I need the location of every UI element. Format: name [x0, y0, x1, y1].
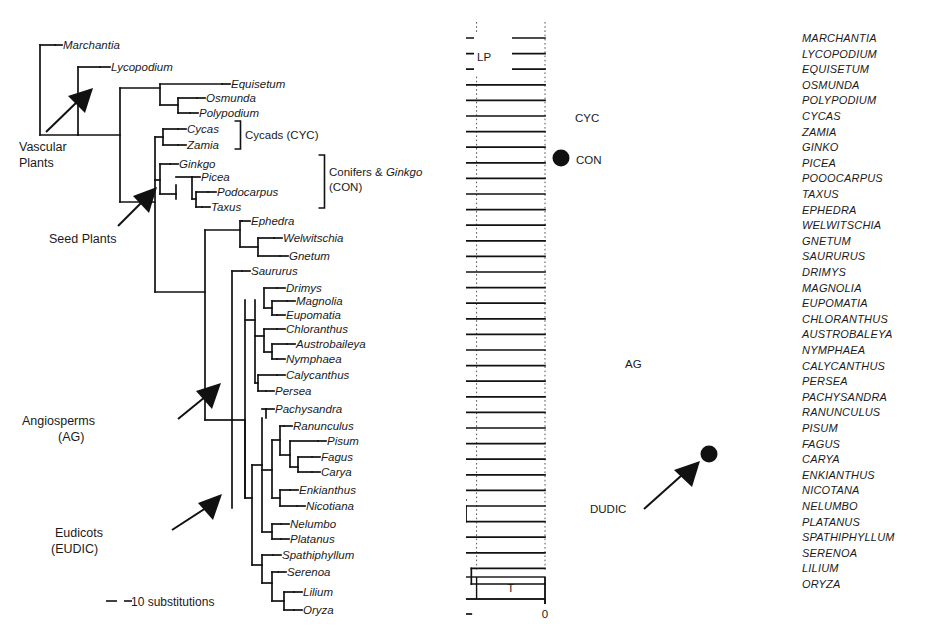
- bracket-conifers-label-italic: Ginkgo: [386, 166, 423, 178]
- left-tip-label: Nelumbo: [290, 518, 337, 530]
- left-tip-label: Ranunculus: [293, 420, 354, 432]
- annotation-dudic-label: DUDIC: [590, 503, 626, 515]
- bracket-conifers: Conifers & Ginkgo (CON): [319, 155, 423, 208]
- left-tip-label: Serenoa: [287, 566, 330, 578]
- right-tip-label: CHLORANTHUS: [802, 313, 888, 325]
- left-tip-label: Fagus: [321, 451, 353, 463]
- right-tip-label: CALYCANTHUS: [802, 360, 886, 372]
- node-label-con-text: CON: [576, 154, 602, 166]
- left-tip-label: Marchantia: [63, 39, 120, 51]
- left-tip-label: Persea: [275, 385, 311, 397]
- right-tip-label: GINKO: [802, 141, 839, 153]
- left-tip-label: Welwitschia: [283, 232, 344, 244]
- left-tip-label: Cycas: [187, 123, 219, 135]
- right-tip-label: NICOTANA: [802, 484, 860, 496]
- left-tip-label: Carya: [321, 466, 352, 478]
- right-tip-label: PACHYSANDRA: [802, 391, 887, 403]
- left-tip-label: Calycanthus: [286, 369, 350, 381]
- right-tip-label: PISUM: [802, 422, 838, 434]
- right-tree-tip-labels: MARCHANTIALYCOPODIUMEQUISETUMOSMUNDAPOLY…: [801, 32, 895, 590]
- right-tree-branches: [466, 38, 545, 614]
- right-tip-label: TAXUS: [802, 188, 839, 200]
- right-tip-label: CYCAS: [802, 110, 841, 122]
- annotation-eudicots-line1: Eudicots: [55, 526, 103, 540]
- figure-root: MarchantiaLycopodiumEquisetumOsmundaPoly…: [0, 0, 932, 643]
- bracket-cycads-label: Cycads (CYC): [245, 129, 319, 141]
- node-label-lp-text: LP: [477, 51, 491, 63]
- time-axis-tick-0: 0: [542, 608, 548, 620]
- right-tip-label: EQUISETUM: [802, 63, 870, 75]
- left-tip-label: Enkianthus: [299, 484, 356, 496]
- left-tip-label: Polypodium: [199, 107, 260, 119]
- time-axis-gridlines: [466, 22, 545, 572]
- node-label-cyc: CYC: [572, 107, 612, 127]
- left-tip-label: Picea: [201, 171, 230, 183]
- calibration-node-con: [553, 150, 570, 167]
- right-tip-label: AUSTROBALEYA: [801, 328, 892, 340]
- calibration-node-dudic: [701, 446, 718, 463]
- node-label-con: CON: [572, 149, 614, 169]
- right-tip-label: POLYPODIUM: [802, 94, 877, 106]
- right-tip-label: RANUNCULUS: [802, 406, 881, 418]
- annotation-vascular-plants-line2: Plants: [19, 156, 54, 170]
- left-tip-label: Austrobaileya: [295, 338, 366, 350]
- left-phylogram-panel: MarchantiaLycopodiumEquisetumOsmundaPoly…: [0, 0, 466, 643]
- left-tip-label: Nymphaea: [286, 353, 342, 365]
- left-tip-label: Eupomatia: [286, 309, 341, 321]
- left-tip-label: Chloranthus: [286, 323, 348, 335]
- left-tip-label: Ginkgo: [179, 158, 216, 170]
- left-tree-tip-labels: MarchantiaLycopodiumEquisetumOsmundaPoly…: [63, 39, 366, 616]
- left-tip-label: Lilium: [303, 586, 333, 598]
- left-tip-label: Lycopodium: [111, 61, 173, 73]
- right-tip-label: CARYA: [802, 453, 840, 465]
- bracket-cycads: Cycads (CYC): [235, 121, 319, 149]
- right-tip-label: SERENOA: [802, 547, 857, 559]
- bracket-conifers-label-line1: Conifers & Ginkgo: [329, 166, 423, 178]
- annotation-vascular-plants: Vascular Plants: [19, 88, 93, 170]
- left-tip-label: Nicotiana: [306, 500, 354, 512]
- annotation-seed-plants-label: Seed Plants: [49, 232, 116, 246]
- right-tip-label: NYMPHAEA: [802, 344, 865, 356]
- annotation-eudicots: Eudicots (EUDIC): [51, 494, 222, 556]
- right-tip-label: SAURURUS: [802, 250, 866, 262]
- left-tip-label: Osmunda: [206, 92, 256, 104]
- annotation-angiosperms-line2: (AG): [58, 430, 84, 444]
- left-tip-label: Magnolia: [296, 295, 343, 307]
- left-tip-label: Podocarpus: [217, 186, 279, 198]
- right-tip-label: ZAMIA: [801, 126, 837, 138]
- right-tip-label: PLATANUS: [802, 516, 861, 528]
- left-tree-scale-bar: 10 substitutions: [106, 595, 214, 609]
- bracket-conifers-label-line2: (CON): [329, 181, 362, 193]
- right-tip-label: PICEA: [802, 157, 836, 169]
- left-tip-label: Equisetum: [231, 78, 286, 90]
- node-label-cyc-text: CYC: [575, 112, 599, 124]
- right-tip-label: DRIMYS: [802, 266, 846, 278]
- node-label-lp: LP: [474, 34, 512, 75]
- right-tip-label: MAGNOLIA: [802, 282, 862, 294]
- right-tip-label: FAGUS: [802, 438, 841, 450]
- right-tip-label: ENKIANTHUS: [802, 469, 875, 481]
- right-tip-label: OSMUNDA: [802, 79, 860, 91]
- right-tip-label: ORYZA: [802, 578, 841, 590]
- right-tip-label: SPATHIPHYLLUM: [802, 531, 895, 543]
- annotation-angiosperms: Angiosperms (AG): [22, 383, 221, 444]
- left-tip-label: Spathiphyllum: [282, 549, 355, 561]
- annotation-seed-plants: Seed Plants: [49, 187, 157, 246]
- annotation-angiosperms-line1: Angiosperms: [22, 414, 95, 428]
- left-tip-label: Saururus: [251, 265, 298, 277]
- left-tip-label: Pachysandra: [275, 403, 342, 415]
- right-tip-label: GNETUM: [802, 235, 852, 247]
- annotation-eudicots-line2: (EUDIC): [51, 542, 98, 556]
- right-tip-label: EUPOMATIA: [802, 297, 868, 309]
- right-tip-label: LILIUM: [802, 562, 839, 574]
- left-tip-label: Ephedra: [251, 215, 294, 227]
- right-tip-label: NELUMBO: [802, 500, 858, 512]
- left-tip-label: Oryza: [303, 604, 334, 616]
- left-tip-label: Pisum: [327, 435, 359, 447]
- right-tip-label: MARCHANTIA: [802, 32, 877, 44]
- left-tip-label: Gnetum: [289, 250, 330, 262]
- right-chronogram-panel: MARCHANTIALYCOPODIUMEQUISETUMOSMUNDAPOLY…: [466, 0, 932, 643]
- bracket-conifers-label-part1: Conifers &: [329, 166, 386, 178]
- left-tip-label: Platanus: [290, 533, 335, 545]
- right-tip-label: EPHEDRA: [802, 204, 857, 216]
